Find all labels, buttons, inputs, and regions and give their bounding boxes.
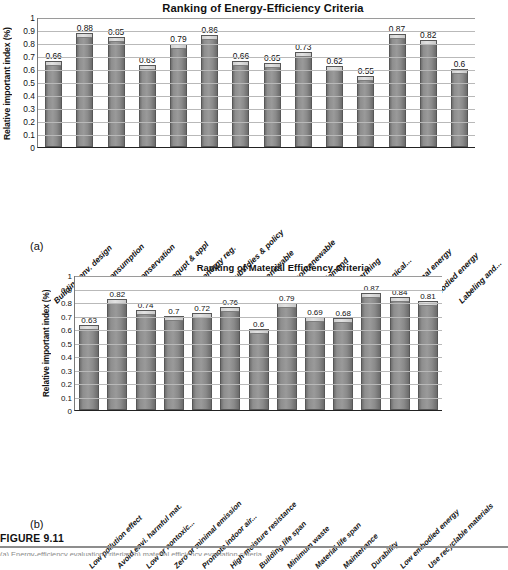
y-tick-label: 0 <box>68 407 72 416</box>
y-tick-label: 0.2 <box>23 117 35 127</box>
figure-number: FIGURE 9.11 <box>0 533 508 544</box>
gridline <box>38 70 475 71</box>
bar: 0.88 <box>76 33 93 147</box>
y-tick-label: 0.4 <box>61 353 72 362</box>
bar: 0.72 <box>192 313 212 410</box>
bar: 0.87 <box>361 293 381 410</box>
bar-value-label: 0.79 <box>170 34 186 44</box>
chart-b-body: Relative important index (%) 10.90.80.70… <box>40 276 508 411</box>
gridline <box>75 330 442 331</box>
y-tick-label: 0.5 <box>23 78 35 88</box>
bar: 0.68 <box>333 318 353 410</box>
y-tick-label: 0.9 <box>23 26 35 36</box>
y-tick-label: 1 <box>30 13 35 23</box>
y-tick-label: 0.4 <box>23 91 35 101</box>
bar: 0.73 <box>295 52 312 147</box>
panel-label-b: (b) <box>30 518 43 530</box>
y-tick-label: 0.7 <box>23 52 35 62</box>
gridline <box>38 96 475 97</box>
gridline <box>38 83 475 84</box>
gridline <box>75 398 442 399</box>
gridline <box>38 44 475 45</box>
chart-a-body: Relative important index (%) 10.90.80.70… <box>0 18 508 149</box>
y-tick-label: 0.5 <box>61 339 72 348</box>
gridline <box>75 317 442 318</box>
bar: 0.76 <box>220 307 240 410</box>
y-tick-label: 0.1 <box>61 393 72 402</box>
gridline <box>38 57 475 58</box>
bar-value-label: 0.69 <box>307 308 323 317</box>
caption-divider <box>0 546 508 548</box>
bar-value-label: 0.87 <box>364 284 380 293</box>
gridline <box>75 290 442 291</box>
chart-material-efficiency: Ranking of Material Efficiency Criteria … <box>0 262 508 411</box>
bar-value-label: 0.79 <box>279 294 295 303</box>
gridline <box>75 303 442 304</box>
y-tick-label: 1 <box>68 272 72 281</box>
bar-value-label: 0.6 <box>253 320 264 329</box>
bar-value-label: 0.7 <box>168 307 179 316</box>
bar: 0.55 <box>357 76 374 148</box>
figure-caption: FIGURE 9.11 (a) Energy-efficiency evalua… <box>0 533 508 556</box>
gridline <box>75 357 442 358</box>
gridline <box>38 18 475 19</box>
bar: 0.86 <box>201 35 218 147</box>
y-tick-label: 0.8 <box>23 39 35 49</box>
bar-value-label: 0.87 <box>389 24 405 34</box>
y-tick-label: 0.7 <box>61 312 72 321</box>
gridline <box>75 276 442 277</box>
gridline <box>38 135 475 136</box>
chart-energy-efficiency: Ranking of Energy-Efficiency Criteria Re… <box>0 2 508 149</box>
y-tick-label: 0.3 <box>23 104 35 114</box>
y-tick-label: 0.6 <box>23 65 35 75</box>
chart-a-plot-area: 0.660.880.850.630.790.860.660.650.730.62… <box>37 18 475 148</box>
y-tick-label: 0.8 <box>61 299 72 308</box>
y-tick-label: 0.6 <box>61 326 72 335</box>
bar: 0.84 <box>390 297 410 410</box>
chart-a-title: Ranking of Energy-Efficiency Criteria <box>18 2 508 14</box>
bar: 0.87 <box>389 34 406 147</box>
bar-value-label: 0.82 <box>110 290 126 299</box>
chart-a-y-ticks: 10.90.80.70.60.50.40.30.20.10 <box>13 18 37 148</box>
chart-b-title: Ranking of Material Efficiency Criteria <box>58 262 508 273</box>
bar-value-label: 0.72 <box>194 304 210 313</box>
y-tick-label: 0.9 <box>61 285 72 294</box>
chart-b-plot-area: 0.630.820.740.70.720.760.60.790.690.680.… <box>74 276 442 411</box>
chart-a-y-axis-label: Relative important index (%) <box>0 19 13 149</box>
bar-value-label: 0.81 <box>420 292 436 301</box>
y-tick-label: 0.3 <box>61 366 72 375</box>
gridline <box>75 384 442 385</box>
bar: 0.74 <box>136 310 156 410</box>
y-tick-label: 0.2 <box>61 380 72 389</box>
y-tick-label: 0 <box>30 143 35 153</box>
bar-value-label: 0.6 <box>454 59 466 69</box>
y-tick-label: 0.1 <box>23 130 35 140</box>
chart-b-y-axis-label: Relative important index (%) <box>40 276 52 411</box>
gridline <box>75 344 442 345</box>
bar: 0.85 <box>108 37 125 148</box>
gridline <box>38 109 475 110</box>
panel-label-a: (a) <box>30 240 43 252</box>
gridline <box>38 31 475 32</box>
figure-caption-text: (a) Energy-efficiency evaluation criteri… <box>0 550 508 556</box>
gridline <box>38 122 475 123</box>
gridline <box>75 371 442 372</box>
chart-b-y-ticks: 10.90.80.70.60.50.40.30.20.10 <box>52 276 74 411</box>
